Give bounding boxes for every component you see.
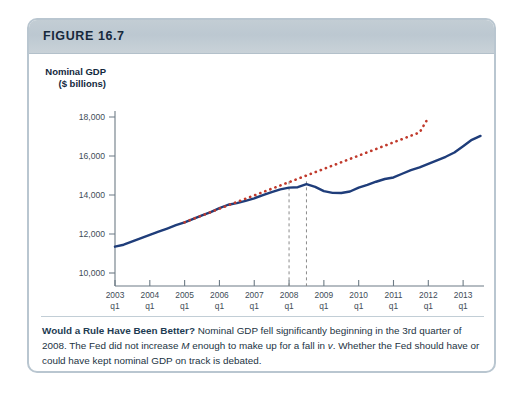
y-tick-label: 16,000 (79, 151, 106, 161)
y-tick-label: 10,000 (79, 268, 106, 278)
y-axis-title-line2: ($ billions) (59, 78, 107, 89)
x-tick-label-year: 2010 (349, 290, 368, 300)
y-tick-label: 18,000 (79, 112, 106, 122)
x-tick-label-year: 2004 (140, 290, 159, 300)
x-axis-title: Year and quarter (409, 312, 483, 313)
nominal-gdp-line-chart: 10,00012,00014,00016,00018,000Nominal GD… (29, 53, 494, 313)
x-tick-label-quarter: q1 (354, 301, 364, 311)
figure-label: FIGURE 16.7 (43, 29, 125, 43)
x-tick-label-year: 2012 (419, 290, 438, 300)
x-tick-label-year: 2008 (280, 290, 299, 300)
series-actual-gdp (115, 136, 481, 247)
y-tick-label: 12,000 (79, 229, 106, 239)
x-tick-label-year: 2003 (106, 290, 125, 300)
caption-lead: Would a Rule Have Been Better? (42, 325, 195, 336)
x-tick-label-quarter: q1 (389, 301, 399, 311)
x-tick-label-year: 2011 (384, 290, 402, 300)
x-tick-label-quarter: q1 (145, 301, 155, 311)
y-tick-label: 14,000 (79, 190, 106, 200)
x-tick-label-quarter: q1 (180, 301, 190, 311)
x-tick-label-year: 2005 (175, 290, 194, 300)
x-tick-label-quarter: q1 (424, 301, 434, 311)
figure-container: FIGURE 16.7 10,00012,00014,00016,00018,0… (27, 18, 496, 373)
figure-caption: Would a Rule Have Been Better? Nominal G… (42, 323, 486, 369)
x-tick-label-year: 2009 (315, 290, 334, 300)
x-tick-label-quarter: q1 (215, 301, 225, 311)
figure-header-band: FIGURE 16.7 (29, 20, 494, 54)
x-tick-label-year: 2006 (210, 290, 229, 300)
caption-body-2: enough to make up for a fall in (190, 340, 328, 351)
x-tick-label-quarter: q1 (284, 301, 294, 311)
x-tick-label-quarter: q1 (458, 301, 468, 311)
y-axis-title-line1: Nominal GDP (45, 66, 106, 77)
x-tick-label-quarter: q1 (319, 301, 329, 311)
x-tick-label-year: 2013 (454, 290, 473, 300)
chart-area: 10,00012,00014,00016,00018,000Nominal GD… (29, 53, 494, 313)
caption-italic-m: M (181, 340, 189, 351)
x-tick-label-quarter: q1 (110, 301, 120, 311)
x-tick-label-year: 2007 (245, 290, 264, 300)
caption-divider (41, 316, 484, 317)
x-tick-label-quarter: q1 (250, 301, 260, 311)
annotation-label-year: 2008 (297, 312, 316, 313)
